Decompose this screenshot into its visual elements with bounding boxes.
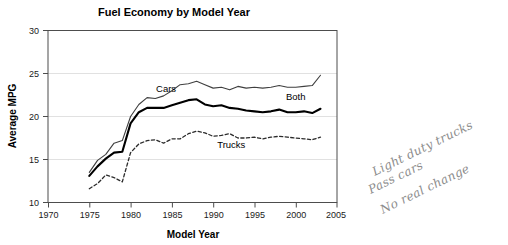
- series-label-trucks: Trucks: [217, 139, 245, 150]
- x-axis-title: Model Year: [167, 229, 220, 240]
- handwritten-line-2: Pass cars: [366, 158, 425, 197]
- y-tick-15: 15: [29, 155, 39, 165]
- y-axis-title: Average MPG: [7, 83, 18, 148]
- series-label-cars: Cars: [156, 83, 176, 94]
- series-line-trucks: [89, 131, 320, 189]
- y-axis-ticks: 10 15 20 25 30: [29, 26, 48, 208]
- x-tick-2005: 2005: [326, 210, 346, 220]
- series-line-cars: [89, 75, 320, 172]
- fuel-economy-line-chart: Fuel Economy by Model Year Average MPG M…: [0, 0, 360, 245]
- y-tick-30: 30: [29, 26, 39, 36]
- y-tick-20: 20: [29, 112, 39, 122]
- x-tick-1985: 1985: [162, 210, 182, 220]
- chart-figure: Fuel Economy by Model Year Average MPG M…: [0, 0, 360, 245]
- handwritten-annotation: Light duty trucks Pass cars No real chan…: [364, 104, 504, 214]
- x-tick-1990: 1990: [204, 210, 224, 220]
- x-tick-2000: 2000: [286, 210, 306, 220]
- x-tick-1975: 1975: [80, 210, 100, 220]
- series-label-both: Both: [286, 91, 306, 102]
- x-axis-ticks: 1970 1975 1980 1985 1990 1995 2000 2005: [38, 203, 346, 221]
- handwritten-line-1: Light duty trucks: [370, 118, 475, 179]
- x-tick-1995: 1995: [245, 210, 265, 220]
- handwritten-line-3: No real change: [378, 161, 472, 216]
- gridlines: [48, 74, 337, 160]
- x-tick-1970: 1970: [38, 210, 58, 220]
- chart-title: Fuel Economy by Model Year: [98, 6, 251, 18]
- y-tick-10: 10: [29, 198, 39, 208]
- y-tick-25: 25: [29, 69, 39, 79]
- x-tick-1980: 1980: [121, 210, 141, 220]
